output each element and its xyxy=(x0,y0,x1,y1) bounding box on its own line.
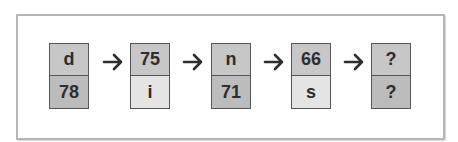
box-4-bottom: s xyxy=(292,76,330,108)
box-4-top: 66 xyxy=(292,44,330,76)
sequence-box-5-unknown: ? ? xyxy=(371,43,411,109)
right-arrow-icon xyxy=(343,52,365,72)
right-arrow-icon xyxy=(182,52,204,72)
sequence-box-4: 66 s xyxy=(291,43,331,109)
box-2-top: 75 xyxy=(131,44,169,76)
right-arrow-icon xyxy=(102,52,124,72)
box-5-bottom: ? xyxy=(372,76,410,108)
box-2-bottom: i xyxy=(131,76,169,108)
sequence-box-2: 75 i xyxy=(130,43,170,109)
box-1-bottom: 78 xyxy=(50,76,88,108)
box-3-bottom: 71 xyxy=(212,76,250,108)
box-3-top: n xyxy=(212,44,250,76)
right-arrow-icon xyxy=(263,52,285,72)
box-1-top: d xyxy=(50,44,88,76)
sequence-box-3: n 71 xyxy=(211,43,251,109)
sequence-box-1: d 78 xyxy=(49,43,89,109)
box-5-top: ? xyxy=(372,44,410,76)
